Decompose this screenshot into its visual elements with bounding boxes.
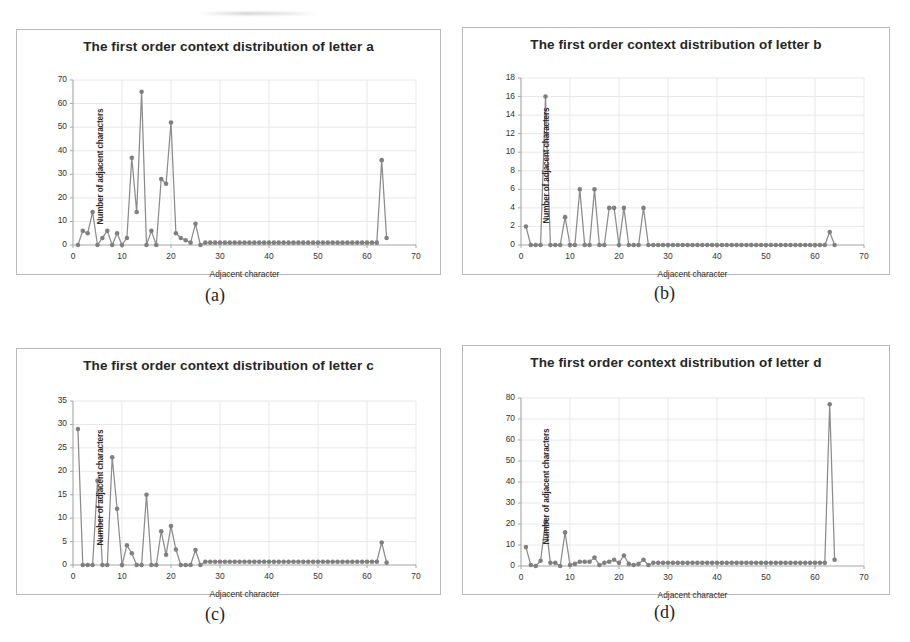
- data-point-marker: [533, 564, 538, 569]
- y-tick-label: 0: [489, 239, 515, 249]
- data-point-marker: [105, 229, 110, 234]
- data-point-marker: [739, 561, 744, 566]
- data-point-marker: [783, 243, 788, 248]
- data-point-marker: [198, 563, 203, 568]
- data-point-marker: [631, 563, 636, 568]
- data-point-marker: [316, 240, 321, 245]
- y-tick-label: 0: [41, 559, 67, 569]
- x-tick-label: 40: [705, 572, 729, 582]
- data-point-marker: [134, 210, 139, 215]
- data-point-marker: [272, 240, 277, 245]
- data-point-marker: [169, 524, 174, 529]
- data-point-marker: [203, 559, 208, 564]
- data-point-marker: [759, 561, 764, 566]
- data-point-marker: [326, 559, 331, 564]
- y-tick-label: 80: [489, 392, 515, 402]
- y-tick-label: 8: [489, 165, 515, 175]
- data-point-marker: [769, 561, 774, 566]
- y-tick-label: 5: [41, 536, 67, 546]
- data-point-marker: [617, 561, 622, 566]
- data-point-marker: [827, 230, 832, 235]
- data-point-marker: [612, 206, 617, 211]
- data-point-marker: [100, 236, 105, 241]
- y-tick-label: 10: [41, 512, 67, 522]
- chart-panel-b: The first order context distribution of …: [462, 27, 890, 275]
- data-point-marker: [110, 243, 115, 248]
- data-point-marker: [164, 181, 169, 186]
- data-point-marker: [656, 243, 661, 248]
- x-tick-label: 50: [754, 572, 778, 582]
- data-point-marker: [321, 240, 326, 245]
- x-tick-label: 60: [803, 572, 827, 582]
- data-point-marker: [646, 243, 651, 248]
- y-axis-title: Number of adjacent characters: [96, 430, 105, 546]
- x-tick-label: 60: [355, 571, 379, 581]
- data-point-marker: [548, 243, 553, 248]
- data-point-marker: [384, 236, 389, 241]
- data-point-marker: [725, 561, 730, 566]
- x-tick-label: 0: [509, 572, 533, 582]
- x-tick-label: 10: [110, 571, 134, 581]
- data-point-marker: [676, 243, 681, 248]
- x-tick-label: 70: [404, 251, 428, 261]
- data-point-marker: [125, 543, 130, 548]
- data-point-marker: [316, 559, 321, 564]
- data-point-marker: [818, 561, 823, 566]
- y-tick-label: 70: [489, 413, 515, 423]
- data-point-marker: [582, 560, 587, 565]
- data-point-marker: [257, 240, 262, 245]
- data-point-marker: [587, 243, 592, 248]
- data-point-marker: [85, 563, 90, 568]
- data-point-marker: [247, 240, 252, 245]
- data-point-marker: [700, 243, 705, 248]
- data-point-marker: [582, 243, 587, 248]
- data-point-marker: [252, 559, 257, 564]
- data-point-marker: [607, 560, 612, 565]
- data-point-marker: [729, 243, 734, 248]
- data-point-marker: [301, 559, 306, 564]
- y-tick-label: 40: [489, 476, 515, 486]
- data-point-marker: [360, 559, 365, 564]
- y-tick-label: 2: [489, 220, 515, 230]
- data-point-marker: [139, 89, 144, 94]
- y-tick-label: 60: [489, 434, 515, 444]
- data-point-marker: [90, 210, 95, 215]
- y-tick-label: 60: [41, 98, 67, 108]
- x-tick-label: 10: [558, 251, 582, 261]
- data-point-marker: [759, 243, 764, 248]
- figure-caption-c: (c): [205, 604, 225, 625]
- data-point-marker: [213, 240, 218, 245]
- data-point-marker: [130, 155, 135, 160]
- data-point-marker: [538, 558, 543, 563]
- y-tick-label: 30: [489, 497, 515, 507]
- data-point-marker: [558, 243, 563, 248]
- data-point-marker: [578, 560, 583, 565]
- data-point-marker: [125, 236, 130, 241]
- data-point-marker: [375, 559, 380, 564]
- data-point-marker: [695, 243, 700, 248]
- data-point-marker: [379, 540, 384, 545]
- data-point-marker: [680, 243, 685, 248]
- data-point-marker: [793, 561, 798, 566]
- data-point-marker: [803, 561, 808, 566]
- x-tick-label: 0: [61, 251, 85, 261]
- data-point-marker: [247, 559, 252, 564]
- data-point-marker: [149, 563, 154, 568]
- data-point-marker: [326, 240, 331, 245]
- x-tick-label: 50: [306, 571, 330, 581]
- x-tick-label: 40: [257, 571, 281, 581]
- data-point-marker: [710, 561, 715, 566]
- data-point-marker: [365, 559, 370, 564]
- data-point-marker: [671, 561, 676, 566]
- data-point-marker: [130, 551, 135, 556]
- data-point-marker: [666, 243, 671, 248]
- y-tick-label: 0: [41, 239, 67, 249]
- data-point-marker: [813, 243, 818, 248]
- data-point-marker: [262, 240, 267, 245]
- data-point-marker: [144, 243, 149, 248]
- data-point-marker: [661, 243, 666, 248]
- y-tick-label: 10: [41, 215, 67, 225]
- data-point-marker: [384, 560, 389, 565]
- data-point-marker: [823, 561, 828, 566]
- data-point-marker: [617, 243, 622, 248]
